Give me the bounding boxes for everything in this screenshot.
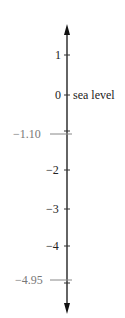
tick-label-minus-4: −4 (46, 240, 59, 252)
tick-label-minus-3: −3 (46, 203, 59, 215)
tick-label-minus-4-95: −4.95 (15, 274, 43, 286)
tick-label-minus-2: −2 (46, 164, 59, 176)
sea-level-label: sea level (73, 89, 115, 101)
tick-label-0: 0 (55, 89, 61, 101)
up-arrow-icon (64, 24, 70, 35)
tick-label-minus-1-10: −1.10 (13, 128, 41, 140)
number-line (0, 0, 125, 318)
tick-label-1: 1 (55, 49, 61, 61)
down-arrow-icon (64, 303, 70, 314)
